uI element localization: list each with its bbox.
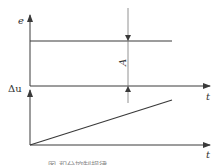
t-axis-top-label: t: [206, 91, 211, 102]
integral-control-diagram: e t A Δu t 图 积分控制规律: [0, 0, 217, 165]
amplitude-label: A: [117, 59, 128, 67]
delta-u-axis-label: Δu: [8, 83, 22, 94]
output-ramp-line: [30, 100, 172, 145]
t-axis-bottom-label: t: [206, 149, 211, 160]
amplitude-arrow-down-icon: [125, 35, 131, 41]
figure-caption: 图 积分控制规律: [48, 160, 107, 165]
e-axis-label: e: [18, 15, 24, 26]
amplitude-arrow-up-icon: [125, 86, 131, 92]
